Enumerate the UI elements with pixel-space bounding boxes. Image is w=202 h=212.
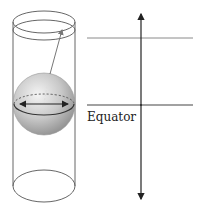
cylinder-bottom-ellipse [13, 170, 75, 202]
projection-arrow [50, 30, 62, 74]
equator-label: Equator [87, 110, 136, 124]
cylinder-top-ellipse [13, 11, 75, 33]
diagram-canvas [0, 0, 202, 212]
